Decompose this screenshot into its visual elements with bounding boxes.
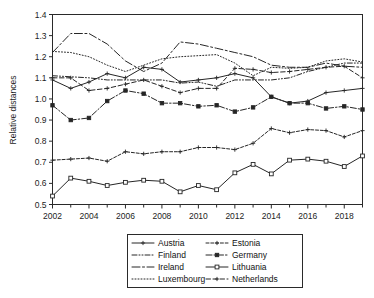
data-point xyxy=(69,118,72,121)
y-tick-label: 1.4 xyxy=(35,10,47,20)
data-point xyxy=(69,176,73,180)
y-tick-label: 0.6 xyxy=(35,178,47,188)
data-point xyxy=(361,108,364,111)
data-point xyxy=(178,190,182,194)
legend-marker xyxy=(215,265,219,269)
series-lithuania xyxy=(51,154,365,198)
data-point xyxy=(270,95,273,98)
data-point xyxy=(87,179,91,183)
x-tick-label: 2012 xyxy=(225,211,244,221)
series-finland xyxy=(53,63,363,86)
data-point xyxy=(215,265,219,269)
y-tick-label: 1.0 xyxy=(35,94,47,104)
y-tick-label: 1.2 xyxy=(35,52,47,62)
data-point xyxy=(288,158,292,162)
data-point xyxy=(51,194,55,198)
series-luxembourg xyxy=(53,51,363,75)
x-tick-label: 2016 xyxy=(298,211,317,221)
data-point xyxy=(306,101,309,104)
legend-marker xyxy=(215,253,218,256)
legend-marker xyxy=(215,241,219,245)
data-point xyxy=(343,105,346,108)
line-chart: Relative distances 0.50.60.70.80.91.01.1… xyxy=(0,0,374,298)
y-tick-label: 0.8 xyxy=(35,136,47,146)
legend-label-finland: Finland xyxy=(158,250,186,260)
y-tick-label: 0.7 xyxy=(35,157,47,167)
data-point xyxy=(251,106,254,109)
data-point xyxy=(324,159,328,163)
data-point xyxy=(160,179,164,183)
data-point xyxy=(51,104,54,107)
legend-label-germany: Germany xyxy=(232,250,268,260)
x-tick-label: 2002 xyxy=(43,211,62,221)
series-line xyxy=(53,34,363,72)
data-point xyxy=(233,110,236,113)
plot-frame xyxy=(53,15,363,205)
series-layer xyxy=(50,34,364,198)
legend-marker xyxy=(141,241,145,245)
data-point xyxy=(197,105,200,108)
y-axis-title: Relative distances xyxy=(8,76,18,145)
series-estonia xyxy=(50,126,364,163)
data-point xyxy=(215,104,218,107)
data-point xyxy=(87,116,90,119)
data-point xyxy=(215,188,219,192)
x-tick-label: 2006 xyxy=(116,211,135,221)
data-point xyxy=(178,101,181,104)
y-tick-label: 1.1 xyxy=(35,73,47,83)
x-tick-label: 2010 xyxy=(189,211,208,221)
x-tick-label: 2018 xyxy=(335,211,354,221)
series-line xyxy=(53,51,363,75)
data-point xyxy=(124,89,127,92)
data-point xyxy=(251,162,255,166)
legend-entries: AustriaEstoniaFinlandGermanyIrelandLithu… xyxy=(132,238,278,284)
y-tick-label: 1.3 xyxy=(35,31,47,41)
data-point xyxy=(124,180,128,184)
y-tick-label: 0.9 xyxy=(35,115,47,125)
data-point xyxy=(105,184,109,188)
data-point xyxy=(233,171,237,175)
series-ireland xyxy=(53,34,363,72)
series-netherlands xyxy=(50,64,364,95)
data-point xyxy=(160,101,163,104)
x-axis-ticks: 200220042006200820102012201420162018 xyxy=(43,205,362,221)
legend-label-luxembourg: Luxembourg xyxy=(158,274,206,284)
legend-marker xyxy=(215,277,219,281)
legend-label-netherlands: Netherlands xyxy=(232,274,278,284)
data-point xyxy=(361,154,365,158)
data-point xyxy=(106,99,109,102)
data-point xyxy=(306,157,310,161)
y-axis-ticks: 0.50.60.70.80.91.01.11.21.31.4 xyxy=(35,10,53,210)
y-axis-title-text: Relative distances xyxy=(8,76,18,145)
series-line xyxy=(53,91,363,121)
data-point xyxy=(342,165,346,169)
data-point xyxy=(269,172,273,176)
legend-label-ireland: Ireland xyxy=(158,262,184,272)
x-tick-label: 2014 xyxy=(262,211,281,221)
data-point xyxy=(324,107,327,110)
series-line xyxy=(53,129,363,162)
series-line xyxy=(53,156,363,196)
data-point xyxy=(142,92,145,95)
series-austria xyxy=(50,65,364,105)
data-point xyxy=(215,253,218,256)
series-line xyxy=(53,63,363,86)
legend-label-estonia: Estonia xyxy=(232,238,261,248)
legend-label-lithuania: Lithuania xyxy=(232,262,267,272)
data-point xyxy=(196,184,200,188)
chart-figure: Relative distances 0.50.60.70.80.91.01.1… xyxy=(0,0,374,298)
x-tick-label: 2004 xyxy=(80,211,99,221)
y-tick-label: 0.5 xyxy=(35,200,47,210)
series-line xyxy=(53,67,363,103)
series-germany xyxy=(51,89,364,122)
x-tick-label: 2008 xyxy=(152,211,171,221)
data-point xyxy=(288,101,291,104)
legend-label-austria: Austria xyxy=(158,238,185,248)
data-point xyxy=(142,178,146,182)
